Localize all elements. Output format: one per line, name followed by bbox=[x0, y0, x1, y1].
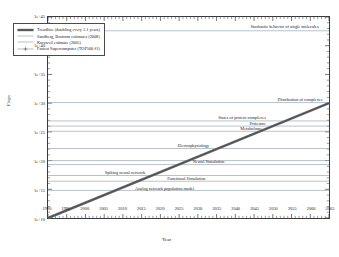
reference-line-label: Functional Simulation bbox=[167, 177, 205, 181]
chart-legend: Trendline (doubling every 1.1 years)Sand… bbox=[13, 23, 105, 56]
legend-item: Trendline (doubling every 1.1 years) bbox=[17, 27, 100, 33]
reference-line-label: Metabolome bbox=[240, 127, 262, 131]
legend-label: Fastest Supercomputer (TOP500 #1) bbox=[37, 46, 100, 51]
reference-line-label: Neural Simulation bbox=[193, 160, 225, 164]
y-tick-label: 1e+15 bbox=[17, 188, 45, 193]
y-tick-label: 1e+35 bbox=[17, 72, 45, 77]
x-tick-label: 2065 bbox=[318, 206, 339, 211]
y-tick-label: 1e+20 bbox=[17, 159, 45, 164]
y-tick-label: 1e+45 bbox=[17, 14, 45, 19]
reference-line-label: Analog network population model bbox=[135, 186, 194, 190]
reference-line-label: Distribution of complexes bbox=[278, 98, 323, 102]
y-tick-label: 1e+30 bbox=[17, 101, 45, 106]
legend-item: Sandberg, Bostrom estimates (2008) bbox=[17, 33, 100, 39]
legend-label: Trendline (doubling every 1.1 years) bbox=[37, 27, 100, 32]
y-tick-label: 1e+10 bbox=[17, 217, 45, 222]
reference-line-label: Electrophysiology bbox=[178, 144, 210, 148]
y-tick-label: 1e+25 bbox=[17, 130, 45, 135]
legend-swatch-icon bbox=[17, 33, 34, 39]
reference-line-label: Spiking neural network bbox=[105, 171, 145, 175]
reference-line-label: Stochastic behavior of single molecules bbox=[250, 25, 318, 29]
x-axis-title: Year bbox=[0, 237, 333, 242]
legend-label: Sandberg, Bostrom estimates (2008) bbox=[37, 34, 100, 39]
y-axis-title: Flops bbox=[6, 71, 11, 131]
y-tick-label: 1e+40 bbox=[17, 43, 45, 48]
legend-swatch-icon bbox=[17, 27, 34, 33]
